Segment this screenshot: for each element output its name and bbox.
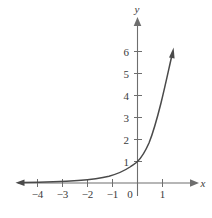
x-axis-label: x	[200, 177, 206, 189]
x-tick-label-neg1: −1	[107, 188, 119, 200]
x-tick-label-pos1: 1	[160, 188, 166, 200]
y-tick-label-2: 2	[124, 134, 130, 146]
x-tick-labels: −4 −3 −2 −1 0 1	[32, 188, 166, 200]
y-tick-labels: 1 2 3 4 5 6	[124, 46, 130, 168]
x-tick-label-neg3: −3	[57, 188, 69, 200]
curve-left-arrow-icon	[16, 179, 25, 186]
exponential-curve	[16, 48, 175, 187]
x-tick-label-zero: 0	[127, 188, 133, 200]
y-tick-label-6: 6	[124, 46, 130, 58]
x-axis-arrow-icon	[190, 179, 199, 187]
x-axis	[18, 179, 199, 187]
x-tick-label-neg4: −4	[32, 188, 44, 200]
y-tick-label-3: 3	[124, 112, 130, 124]
curve-right-arrow-icon	[169, 48, 175, 59]
x-tick-label-neg2: −2	[82, 188, 94, 200]
y-axis-label: y	[134, 3, 140, 15]
figure-container: −4 −3 −2 −1 0 1 1 2 3 4 5 6 x y	[0, 0, 212, 218]
y-tick-label-1: 1	[124, 156, 130, 168]
y-tick-label-4: 4	[124, 90, 130, 102]
y-axis	[134, 17, 142, 196]
y-tick-label-5: 5	[124, 68, 130, 80]
curve-line	[22, 55, 172, 183]
exponential-function-plot: −4 −3 −2 −1 0 1 1 2 3 4 5 6 x y	[0, 0, 212, 218]
y-axis-arrow-icon	[134, 17, 142, 26]
